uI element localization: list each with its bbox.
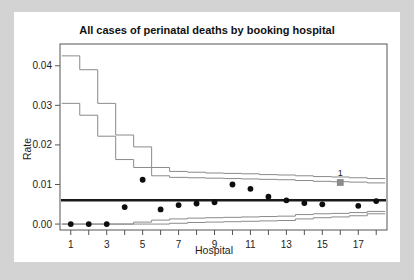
- data-point: [86, 221, 92, 227]
- data-point: [248, 186, 254, 192]
- flagged-points: 1: [337, 168, 344, 186]
- data-point: [301, 200, 307, 206]
- control-limit-bands: [62, 56, 385, 224]
- y-tick-label: 0.00: [33, 219, 53, 230]
- data-point: [230, 182, 236, 188]
- data-point: [319, 201, 325, 207]
- x-tick-label: 5: [140, 239, 146, 250]
- control-limit-line: [62, 56, 385, 179]
- x-tick-label: 1: [68, 239, 74, 250]
- x-tick-label: 15: [317, 239, 329, 250]
- y-tick-label: 0.04: [33, 60, 53, 71]
- y-tick-label: 0.01: [33, 179, 53, 190]
- control-limit-line: [62, 103, 385, 183]
- flagged-data-point: [337, 179, 344, 186]
- data-point: [266, 194, 272, 200]
- data-point: [212, 199, 218, 205]
- y-tick-label: 0.02: [33, 139, 53, 150]
- y-axis-ticks: 0.000.010.020.030.04: [33, 60, 60, 229]
- data-point: [283, 197, 289, 203]
- y-axis-label: Rate: [21, 138, 33, 160]
- data-point: [176, 202, 182, 208]
- x-tick-label: 7: [176, 239, 182, 250]
- x-tick-label: 9: [212, 239, 218, 250]
- data-point: [355, 203, 361, 209]
- figure-card: All cases of perinatal deaths by booking…: [14, 12, 400, 262]
- data-points: [68, 177, 379, 227]
- data-point: [373, 198, 379, 204]
- flagged-point-label: 1: [338, 168, 343, 178]
- data-point: [122, 204, 128, 210]
- x-tick-label: 11: [245, 239, 256, 250]
- x-tick-label: 3: [104, 239, 110, 250]
- x-tick-label: 17: [353, 239, 365, 250]
- data-point: [68, 221, 74, 227]
- x-tick-label: 13: [281, 239, 293, 250]
- plot-frame: [60, 44, 387, 230]
- data-point: [104, 221, 110, 227]
- data-point: [194, 201, 200, 207]
- data-point: [158, 207, 164, 213]
- chart-title: All cases of perinatal deaths by booking…: [79, 24, 335, 36]
- funnel-plot: All cases of perinatal deaths by booking…: [14, 12, 400, 262]
- y-tick-label: 0.03: [33, 100, 53, 111]
- data-point: [140, 177, 146, 183]
- control-limit-line: [62, 214, 385, 224]
